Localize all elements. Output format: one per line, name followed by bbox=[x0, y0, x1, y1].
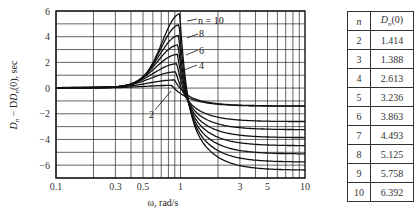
table-row: 21.414 bbox=[348, 31, 414, 50]
cell-dn0: 3.236 bbox=[371, 88, 414, 107]
table-row: 31.388 bbox=[348, 50, 414, 69]
x-tick-label: 3 bbox=[237, 181, 242, 192]
cell-dn0: 1.388 bbox=[371, 50, 414, 69]
x-tick-label: 1 bbox=[178, 181, 183, 192]
x-tick-labels: 0.10.30.513510 bbox=[50, 181, 310, 192]
cell-dn0: 5.125 bbox=[371, 145, 414, 164]
x-tick-label: 0.3 bbox=[109, 181, 122, 192]
x-tick-label: 5 bbox=[265, 181, 270, 192]
label-n6: 6 bbox=[199, 45, 204, 56]
x-tick-label: 10 bbox=[300, 181, 310, 192]
label-n4: 4 bbox=[199, 60, 204, 71]
cell-n: 5 bbox=[348, 88, 371, 107]
table-row: 42.613 bbox=[348, 69, 414, 88]
table-row: 63.863 bbox=[348, 107, 414, 126]
cell-n: 2 bbox=[348, 31, 371, 50]
y-tick-label: −2 bbox=[39, 108, 50, 119]
x-axis-label: ω, rad/s bbox=[147, 197, 178, 208]
y-tick-label: 0 bbox=[45, 83, 50, 94]
table-row: 95.758 bbox=[348, 164, 414, 183]
cell-dn0: 2.613 bbox=[371, 69, 414, 88]
cell-dn0: 6.392 bbox=[371, 183, 414, 202]
cell-n: 3 bbox=[348, 50, 371, 69]
cell-n: 4 bbox=[348, 69, 371, 88]
header-dn0: Dn(0) bbox=[371, 12, 414, 31]
y-axis-label: Dn − DDn(0), sec bbox=[8, 60, 21, 130]
cell-dn0: 1.414 bbox=[371, 31, 414, 50]
x-tick-label: 0.1 bbox=[50, 181, 63, 192]
y-tick-label: 2 bbox=[45, 57, 50, 68]
y-tick-label: 6 bbox=[45, 6, 50, 17]
cell-n: 7 bbox=[348, 126, 371, 145]
table-row: 85.125 bbox=[348, 145, 414, 164]
table-row: 53.236 bbox=[348, 88, 414, 107]
dn-zero-table: n Dn(0) 21.41431.38842.61353.23663.86374… bbox=[347, 11, 414, 202]
y-tick-labels: 6420−2−4−6 bbox=[39, 6, 50, 171]
label-n10: n = 10 bbox=[198, 15, 224, 26]
y-tick-label: −4 bbox=[39, 134, 50, 145]
table-header-row: n Dn(0) bbox=[348, 12, 414, 31]
cell-n: 10 bbox=[348, 183, 371, 202]
cell-n: 8 bbox=[348, 145, 371, 164]
label-n8: 8 bbox=[199, 28, 204, 39]
header-n: n bbox=[348, 12, 371, 31]
cell-dn0: 5.758 bbox=[371, 164, 414, 183]
y-tick-label: 4 bbox=[45, 31, 50, 42]
cell-dn0: 3.863 bbox=[371, 107, 414, 126]
delay-chart: 6420−2−4−6 0.10.30.513510 n = 10 8 6 4 2… bbox=[0, 0, 340, 213]
cell-dn0: 4.493 bbox=[371, 126, 414, 145]
table-row: 106.392 bbox=[348, 183, 414, 202]
y-tick-label: −6 bbox=[39, 160, 50, 171]
x-tick-label: 0.5 bbox=[137, 181, 150, 192]
cell-n: 9 bbox=[348, 164, 371, 183]
table-row: 74.493 bbox=[348, 126, 414, 145]
svg-text:Dn − DDn(0), sec: Dn − DDn(0), sec bbox=[8, 60, 21, 130]
cell-n: 6 bbox=[348, 107, 371, 126]
label-n2: 2 bbox=[149, 109, 154, 120]
